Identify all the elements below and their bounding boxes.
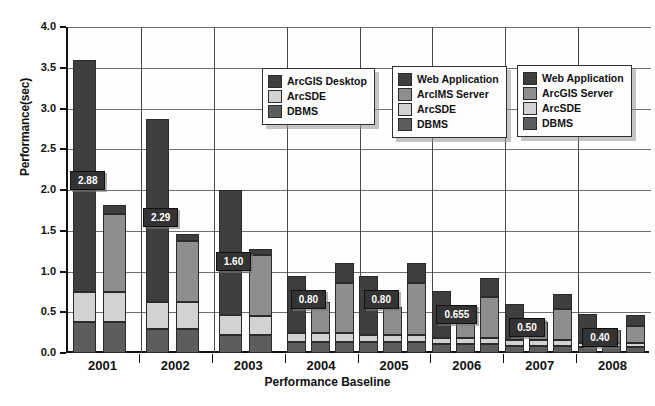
legend-item[interactable]: DBMS	[268, 104, 367, 118]
x-tick-label-2005: 2005	[359, 358, 429, 373]
bar-segment-dbms	[335, 342, 354, 353]
bar-segment-dbms	[73, 322, 96, 353]
legend-arcgis-server[interactable]: Web ApplicationArcGIS ServerArcSDEDBMS	[517, 65, 632, 137]
legend-item[interactable]: DBMS	[523, 116, 624, 130]
bar-segment-dbms	[553, 346, 572, 353]
x-tick-label-2003: 2003	[213, 358, 283, 373]
x-axis-title: Performance Baseline	[0, 375, 655, 389]
bar-segment-web	[407, 263, 426, 283]
data-label-2003: 1.60	[216, 252, 251, 271]
bar-2004-web-stack	[311, 302, 330, 353]
legend-swatch-icon	[523, 102, 537, 115]
bar-segment-sde	[176, 302, 199, 328]
bar-segment-sde	[311, 333, 330, 341]
bar-segment-dbms	[432, 344, 451, 353]
data-label-2008: 0.40	[582, 328, 617, 347]
bar-segment-sde	[480, 338, 499, 345]
group-separator	[214, 27, 215, 353]
bar-segment-web	[335, 263, 354, 283]
bar-2002-web-stack	[176, 234, 199, 353]
bar-segment-sde	[103, 292, 126, 322]
bar-segment-ims	[176, 241, 199, 303]
x-tick-label-2002: 2002	[140, 358, 210, 373]
bar-segment-sde	[407, 335, 426, 342]
bar-2001-web-stack	[103, 205, 126, 353]
bar-segment-dbms	[480, 344, 499, 353]
bar-2003-desktop-stack	[219, 190, 242, 353]
bar-segment-dbms	[529, 346, 548, 353]
legend-arcims[interactable]: Web ApplicationArcIMS ServerArcSDEDBMS	[392, 66, 507, 138]
data-label-2004: 0.80	[291, 290, 326, 309]
y-tick-mark	[60, 108, 66, 110]
bar-2002-desktop-stack	[146, 119, 169, 353]
bar-segment-dbms	[176, 329, 199, 353]
bar-segment-sde	[249, 316, 272, 336]
bar-2005-desktop-stack	[359, 276, 378, 353]
legend-swatch-icon	[398, 118, 412, 131]
bar-2005-web-stack	[383, 307, 402, 353]
bar-segment-gisserver	[480, 297, 499, 338]
legend-swatch-icon	[398, 88, 412, 101]
bar-segment-sde	[553, 340, 572, 346]
y-tick-mark	[60, 189, 66, 191]
bar-2003-web-stack	[249, 249, 272, 353]
bar-segment-dbms	[407, 342, 426, 353]
data-label-2006: 0.655	[436, 305, 477, 324]
x-tick-label-2006: 2006	[432, 358, 502, 373]
bar-segment-dbms	[505, 346, 524, 353]
legend-label: ArcSDE	[417, 103, 456, 115]
bar-segment-web	[553, 294, 572, 309]
legend-item[interactable]: DBMS	[398, 117, 499, 131]
bar-segment-sde	[432, 338, 451, 345]
y-tick-mark	[60, 352, 66, 354]
bar-segment-ims	[103, 214, 126, 291]
legend-item[interactable]: ArcGIS Desktop	[268, 74, 367, 88]
bar-segment-sde	[626, 343, 645, 347]
legend-swatch-icon	[268, 75, 282, 88]
y-tick-label: 0.5	[22, 305, 56, 317]
bar-segment-web	[626, 315, 645, 326]
y-tick-label: 3.0	[22, 102, 56, 114]
data-label-2007: 0.50	[509, 318, 544, 337]
y-tick-mark	[60, 148, 66, 150]
legend-item[interactable]: ArcSDE	[523, 101, 624, 115]
bar-segment-ims	[249, 255, 272, 315]
legend-desktop[interactable]: ArcGIS DesktopArcSDEDBMS	[262, 68, 375, 125]
legend-item[interactable]: Web Application	[398, 72, 499, 86]
bar-segment-sde	[335, 333, 354, 341]
legend-item[interactable]: ArcSDE	[398, 102, 499, 116]
bar-segment-sde	[359, 335, 378, 342]
bar-segment-web	[176, 234, 199, 241]
x-tick-label-2001: 2001	[67, 358, 137, 373]
y-tick-mark	[60, 67, 66, 69]
bar-2006-server-stack	[480, 278, 499, 353]
y-tick-mark	[60, 311, 66, 313]
bar-2005-server-stack	[407, 263, 426, 353]
bar-2004-desktop-stack	[287, 276, 306, 353]
performance-baseline-chart: Performance(sec) 0.00.51.01.52.02.53.03.…	[0, 0, 655, 406]
bar-segment-sde	[505, 340, 524, 346]
x-tick-mark	[285, 354, 286, 363]
x-tick-mark	[576, 354, 577, 363]
bar-segment-sde	[383, 335, 402, 342]
bar-segment-dbms	[578, 347, 597, 353]
data-label-2002: 2.29	[143, 208, 178, 227]
bar-segment-dbms	[626, 347, 645, 353]
bar-segment-gisserver	[553, 309, 572, 340]
bar-segment-dbms	[456, 344, 475, 353]
legend-label: ArcGIS Desktop	[287, 75, 367, 87]
bar-segment-sde	[456, 338, 475, 345]
x-tick-label-2008: 2008	[578, 358, 648, 373]
legend-item[interactable]: Web Application	[523, 71, 624, 85]
legend-item[interactable]: ArcGIS Server	[523, 86, 624, 100]
bar-segment-sde	[287, 333, 306, 341]
legend-item[interactable]: ArcSDE	[268, 89, 367, 103]
legend-swatch-icon	[523, 117, 537, 130]
legend-item[interactable]: ArcIMS Server	[398, 87, 499, 101]
legend-label: DBMS	[417, 118, 448, 130]
bar-2008-server-stack	[626, 315, 645, 353]
legend-label: ArcIMS Server	[417, 88, 489, 100]
legend-label: Web Application	[542, 72, 624, 84]
bar-segment-dbms	[311, 342, 330, 353]
bar-segment-sde	[219, 315, 242, 335]
